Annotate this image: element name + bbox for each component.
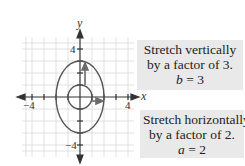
vertical-stretch-note: Stretch vertically by a factor of 3. b =… [137,40,243,90]
x-axis-arrow-right-icon [131,94,139,100]
tick-label-y-neg4: −4 [65,139,77,151]
vertical-note-line2: by a factor of 3. [140,57,240,72]
horizontal-note-equation: a = 2 [143,142,241,157]
vertical-stretch-arrow-icon [82,63,88,85]
horizontal-stretch-arrow-icon [92,98,103,104]
tick-label-y-4: 4 [70,43,76,55]
y-axis-arrow-down-icon [77,155,83,163]
tick-label-x-4: 4 [125,99,131,111]
x-axis-label: x [140,89,147,103]
vertical-note-equation: b = 3 [140,72,240,87]
vertical-note-line1: Stretch vertically [140,42,240,57]
horizontal-note-line1: Stretch horizontally [143,112,241,127]
horizontal-note-line2: by a factor of 2. [143,127,241,142]
y-axis-label: y [76,16,83,30]
horizontal-stretch-note: Stretch horizontally by a factor of 2. a… [140,110,244,158]
tick-label-x-neg4: −4 [23,99,35,111]
y-axis-arrow-up-icon [77,30,83,38]
x-axis [17,94,139,100]
